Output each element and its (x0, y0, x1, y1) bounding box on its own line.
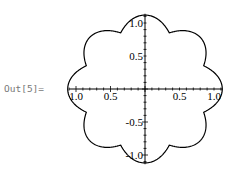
tick-label: 1.0 (129, 17, 143, 29)
tick-label: 1.0 (207, 90, 221, 102)
tick-label: -1.0 (126, 149, 144, 161)
tick-label: 1.0 (69, 90, 83, 102)
polar-plot: 1.00.50.51.01.00.5-0.5-1.0 (0, 0, 234, 176)
tick-label: -0.5 (126, 116, 144, 128)
tick-label: 0.5 (173, 90, 187, 102)
tick-label: 0.5 (129, 50, 143, 62)
tick-label: 0.5 (104, 90, 118, 102)
